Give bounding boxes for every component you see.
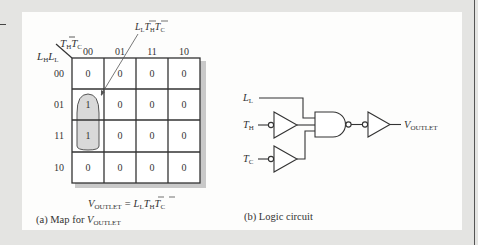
figure-canvas: THTC LHLL 00 01 11 10 00 01 11 10 0 0 0 <box>22 12 462 230</box>
map-cell: 0 <box>118 99 123 110</box>
figure-panel: THTC LHLL 00 01 11 10 00 01 11 10 0 0 0 <box>22 12 462 230</box>
col-header: 10 <box>179 46 189 57</box>
col-header: 01 <box>115 46 125 57</box>
margin-tick <box>0 24 6 25</box>
output-label: VOUTLET <box>404 119 438 132</box>
circuit-caption: (b) Logic circuit <box>244 211 313 223</box>
map-caption: (a) Map for VOUTLET <box>36 214 121 227</box>
row-header: 11 <box>54 130 64 141</box>
col-header: 11 <box>147 46 157 57</box>
karnaugh-map: THTC LHLL 00 01 11 10 00 01 11 10 0 0 0 <box>36 21 206 227</box>
col-var-label: THTC <box>60 37 82 51</box>
map-cell: 0 <box>182 130 187 141</box>
map-cell: 0 <box>86 68 91 79</box>
map-cell: 0 <box>182 99 187 110</box>
buffer-triangle-icon <box>368 112 390 137</box>
row-var-label: LHLL <box>36 50 59 64</box>
nand-bubble-icon <box>346 122 351 127</box>
map-cell: 0 <box>150 99 155 110</box>
row-header: 01 <box>54 99 64 110</box>
map-cell: 0 <box>150 68 155 79</box>
map-cell: 0 <box>118 130 123 141</box>
inverter-bubble-icon <box>268 156 273 161</box>
row-header: 10 <box>54 162 64 173</box>
map-cell: 0 <box>150 130 155 141</box>
wire-ll <box>259 98 315 118</box>
inverter-bubble-icon <box>268 122 273 127</box>
map-cell: 0 <box>118 68 123 79</box>
group-annotation: LLTHTC <box>134 21 165 33</box>
map-cell: 0 <box>182 162 187 173</box>
map-cell: 0 <box>86 162 91 173</box>
buffer-triangle-icon <box>274 146 297 172</box>
map-cell: 1 <box>86 99 91 110</box>
nand-gate-icon <box>315 112 346 137</box>
map-equation: VOUTLET=LLTHTC <box>88 198 165 211</box>
row-headers: 00 01 11 10 <box>54 68 64 173</box>
input-label-tc: TC <box>243 153 254 166</box>
buffer-triangle-icon <box>274 112 297 138</box>
inverter-bubble-icon <box>362 122 367 127</box>
input-label-ll: LL <box>242 92 253 105</box>
wire-tc-out <box>297 131 315 159</box>
logic-circuit: LL TH TC VOUTLET (b) <box>242 92 438 223</box>
map-cell: 0 <box>182 68 187 79</box>
map-cell: 0 <box>118 162 123 173</box>
column-headers: 00 01 11 10 <box>83 46 189 57</box>
row-header: 00 <box>54 68 64 79</box>
input-label-th: TH <box>243 119 254 132</box>
map-cell: 1 <box>86 130 91 141</box>
page-edge-line <box>474 0 475 245</box>
map-cell: 0 <box>150 162 155 173</box>
col-header: 00 <box>83 46 93 57</box>
